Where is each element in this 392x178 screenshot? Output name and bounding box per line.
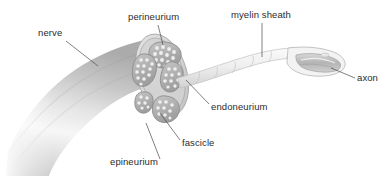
label-myelin-sheath: myelin sheath (231, 9, 291, 20)
diagram-canvas: nerve perineurium myelin sheath axon end… (0, 0, 392, 178)
fascicle (135, 92, 153, 113)
label-perineurium: perineurium (128, 11, 179, 22)
leader-endoneurium (186, 80, 209, 104)
label-fascicle: fascicle (182, 137, 214, 148)
label-axon: axon (357, 72, 378, 83)
nerve-anatomy-diagram: nerve perineurium myelin sheath axon end… (0, 0, 392, 178)
label-endoneurium: endoneurium (211, 101, 268, 112)
fascicle (152, 96, 179, 123)
fiber-cutaway-end (287, 47, 345, 76)
label-epineurium: epineurium (110, 156, 158, 167)
schwann-cell-nucleus (321, 53, 329, 57)
myelinated-nerve-fiber (178, 47, 345, 88)
leader-epineurium (146, 123, 160, 159)
label-nerve: nerve (38, 27, 62, 38)
trunk-fade-overlay (0, 30, 110, 178)
